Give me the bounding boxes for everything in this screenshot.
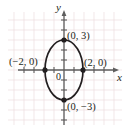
x-axis-label: x — [117, 72, 122, 83]
point-label-right: (2, 0) — [84, 58, 107, 69]
point-label-bottom: (0, −3) — [67, 102, 96, 113]
grid-lines — [8, 12, 122, 125]
point-label-top: (0, 3) — [67, 31, 90, 42]
vertex-point-bottom — [61, 97, 66, 102]
y-axis — [62, 10, 67, 125]
origin-label: 0 — [56, 72, 61, 82]
vertex-point-top — [61, 37, 66, 42]
point-label-left: (−2, 0) — [9, 57, 38, 68]
vertex-point-left — [42, 67, 47, 72]
y-axis-label: y — [56, 2, 61, 13]
ellipse-graph-figure: y x 0 (0, 3) (2, 0) (−2, 0) (0, −3) — [0, 0, 130, 134]
